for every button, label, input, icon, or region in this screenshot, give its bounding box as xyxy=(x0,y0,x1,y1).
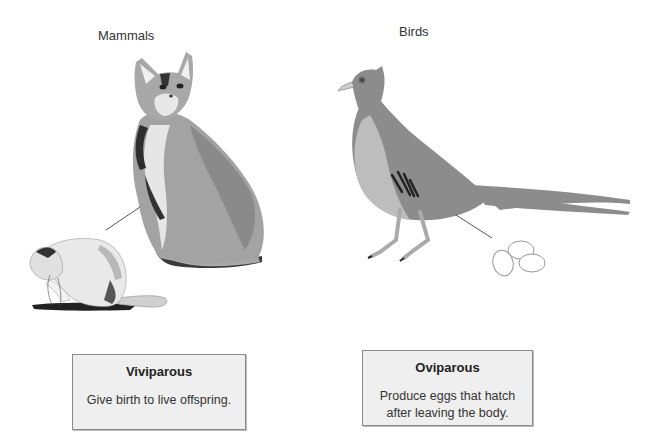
oviparous-description-line-1: Produce eggs that hatch xyxy=(363,388,532,405)
viviparous-title: Viviparous xyxy=(73,364,245,379)
eggs-illustration xyxy=(490,241,545,278)
bird-pointer-line xyxy=(456,215,492,238)
oviparous-box: Oviparous Produce eggs that hatch after … xyxy=(362,350,533,426)
pheasant-illustration xyxy=(338,66,630,261)
oviparous-description-line-2: after leaving the body. xyxy=(363,405,532,422)
viviparous-description: Give birth to live offspring. xyxy=(73,392,245,409)
kitten-illustration xyxy=(30,238,167,310)
adult-cat-illustration xyxy=(133,52,264,268)
viviparous-box: Viviparous Give birth to live offspring. xyxy=(72,354,246,430)
cat-pointer-line xyxy=(106,207,140,230)
oviparous-title: Oviparous xyxy=(363,360,532,375)
oviparous-description: Produce eggs that hatch after leaving th… xyxy=(363,388,532,422)
